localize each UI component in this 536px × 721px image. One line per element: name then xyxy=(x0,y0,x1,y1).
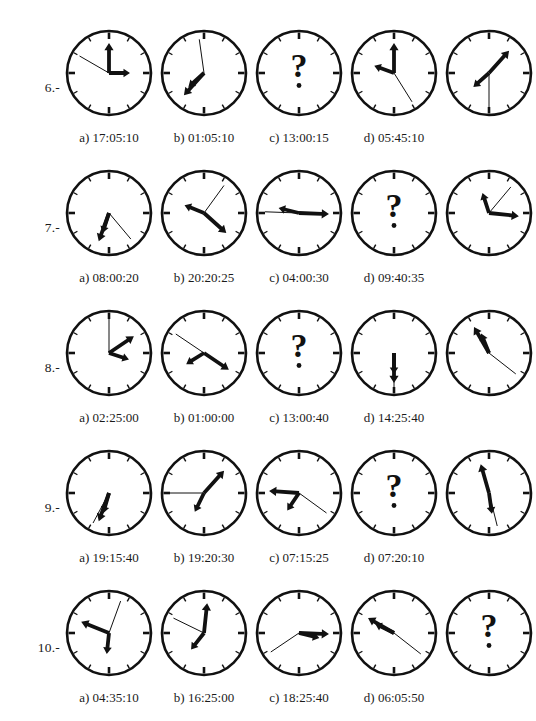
clock-7-4[interactable]: ? xyxy=(347,166,441,260)
clock-7-1-face xyxy=(62,166,156,260)
clock-7-3-face xyxy=(252,166,346,260)
question-mark-glyph: ? xyxy=(386,467,403,504)
clock-9-2[interactable] xyxy=(157,446,251,540)
question-mark-dot xyxy=(297,83,302,88)
clock-10-3-face xyxy=(252,586,346,680)
clock-6-4[interactable] xyxy=(347,26,441,120)
clock-7-5[interactable] xyxy=(442,166,536,260)
clock-7-2[interactable] xyxy=(157,166,251,260)
clock-6-5[interactable] xyxy=(442,26,536,120)
clock-6-3[interactable]: ? xyxy=(252,26,346,120)
exercise-row-9: 9.-?a) 19:15:40b) 19:20:30c) 07:15:25d) … xyxy=(0,442,530,582)
question-mark-glyph: ? xyxy=(386,187,403,224)
clock-10-4[interactable] xyxy=(347,586,441,680)
option-label-4: d) 05:45:10 xyxy=(335,130,453,146)
clock-7-4-face: ? xyxy=(347,166,441,260)
clock-9-1[interactable] xyxy=(62,446,156,540)
clock-10-4-face xyxy=(347,586,441,680)
clock-10-3[interactable] xyxy=(252,586,346,680)
question-mark-dot xyxy=(487,643,492,648)
clock-6-2-face xyxy=(157,26,251,120)
clock-8-3[interactable]: ? xyxy=(252,306,346,400)
row-number-label: 8.- xyxy=(14,360,60,376)
option-label-4: d) 09:40:35 xyxy=(335,270,453,286)
option-label-4: d) 14:25:40 xyxy=(335,410,453,426)
option-label-4: d) 07:20:10 xyxy=(335,550,453,566)
question-mark-glyph: ? xyxy=(481,607,498,644)
row-number-label: 7.- xyxy=(14,220,60,236)
exercise-row-10: 10.-?a) 04:35:10b) 16:25:00c) 18:25:40d)… xyxy=(0,582,530,721)
clock-9-4[interactable]: ? xyxy=(347,446,441,540)
clock-6-1[interactable] xyxy=(62,26,156,120)
clock-8-1[interactable] xyxy=(62,306,156,400)
clock-7-1[interactable] xyxy=(62,166,156,260)
clock-9-3[interactable] xyxy=(252,446,346,540)
clock-8-4-face xyxy=(347,306,441,400)
clock-9-4-face: ? xyxy=(347,446,441,540)
option-label-4: d) 06:05:50 xyxy=(335,690,453,706)
clock-10-1-face xyxy=(62,586,156,680)
question-mark-dot xyxy=(297,363,302,368)
question-mark-glyph: ? xyxy=(291,47,308,84)
clock-8-5-face xyxy=(442,306,536,400)
clock-9-5-face xyxy=(442,446,536,540)
clock-10-1[interactable] xyxy=(62,586,156,680)
question-mark-dot xyxy=(392,223,397,228)
clock-10-5-face: ? xyxy=(442,586,536,680)
clock-9-2-face xyxy=(157,446,251,540)
clock-9-1-face xyxy=(62,446,156,540)
question-mark-glyph: ? xyxy=(291,327,308,364)
clock-10-2-face xyxy=(157,586,251,680)
question-mark-dot xyxy=(392,503,397,508)
row-number-label: 9.- xyxy=(14,500,60,516)
clock-8-5[interactable] xyxy=(442,306,536,400)
clock-8-2[interactable] xyxy=(157,306,251,400)
clock-8-2-face xyxy=(157,306,251,400)
clock-6-4-face xyxy=(347,26,441,120)
clock-10-5[interactable]: ? xyxy=(442,586,536,680)
clock-7-3[interactable] xyxy=(252,166,346,260)
clock-8-3-face: ? xyxy=(252,306,346,400)
clock-10-2[interactable] xyxy=(157,586,251,680)
clock-8-4[interactable] xyxy=(347,306,441,400)
exercise-row-6: 6.-?a) 17:05:10b) 01:05:10c) 13:00:15d) … xyxy=(0,22,530,162)
row-number-label: 6.- xyxy=(14,80,60,96)
exercise-row-8: 8.-?a) 02:25:00b) 01:00:00c) 13:00:40d) … xyxy=(0,302,530,442)
clock-9-3-face xyxy=(252,446,346,540)
clock-8-1-face xyxy=(62,306,156,400)
clock-7-2-face xyxy=(157,166,251,260)
row-number-label: 10.- xyxy=(14,640,60,656)
clock-6-2[interactable] xyxy=(157,26,251,120)
clock-6-3-face: ? xyxy=(252,26,346,120)
clock-6-1-face xyxy=(62,26,156,120)
exercise-row-7: 7.-?a) 08:00:20b) 20:20:25c) 04:00:30d) … xyxy=(0,162,530,302)
clock-6-5-face xyxy=(442,26,536,120)
clock-7-5-face xyxy=(442,166,536,260)
clock-9-5[interactable] xyxy=(442,446,536,540)
